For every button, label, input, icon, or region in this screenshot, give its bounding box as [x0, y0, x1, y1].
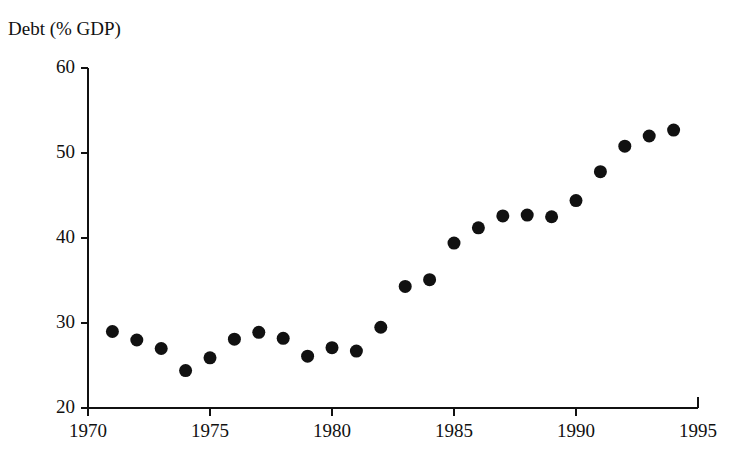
data-point-1993	[643, 130, 656, 143]
data-point-1980	[326, 341, 339, 354]
data-point-1981	[350, 345, 363, 358]
data-point-1982	[374, 321, 387, 334]
data-point-1994	[667, 124, 680, 137]
data-point-1977	[252, 326, 265, 339]
tick-marks	[81, 68, 698, 416]
data-point-1987	[496, 209, 509, 222]
data-point-1978	[277, 332, 290, 345]
x-tick-label-1975: 1975	[175, 421, 245, 441]
data-point-1992	[618, 140, 631, 153]
data-point-1983	[399, 280, 412, 293]
y-tick-label-40: 40	[29, 227, 75, 247]
data-point-1984	[423, 273, 436, 286]
data-point-1990	[570, 194, 583, 207]
data-point-1979	[301, 350, 314, 363]
x-tick-label-1980: 1980	[297, 421, 367, 441]
data-point-1976	[228, 333, 241, 346]
data-marker-group	[106, 124, 680, 378]
data-point-1975	[204, 351, 217, 364]
y-tick-label-60: 60	[29, 57, 75, 77]
data-point-1972	[130, 334, 143, 347]
x-tick-label-1970: 1970	[53, 421, 123, 441]
axis-lines	[88, 68, 698, 408]
data-point-1974	[179, 364, 192, 377]
chart-plot-area	[0, 0, 740, 469]
x-tick-label-1995: 1995	[663, 421, 733, 441]
data-point-1989	[545, 210, 558, 223]
data-point-1988	[521, 209, 534, 222]
data-point-1985	[448, 237, 461, 250]
y-tick-label-50: 50	[29, 142, 75, 162]
data-point-1986	[472, 221, 485, 234]
x-tick-label-1990: 1990	[541, 421, 611, 441]
data-point-1971	[106, 325, 119, 338]
data-point-1991	[594, 165, 607, 178]
chart-container: Debt (% GDP) 2030405060 1970197519801985…	[0, 0, 740, 469]
data-point-1973	[155, 342, 168, 355]
x-tick-label-1985: 1985	[419, 421, 489, 441]
y-tick-label-30: 30	[29, 312, 75, 332]
y-tick-label-20: 20	[29, 397, 75, 417]
